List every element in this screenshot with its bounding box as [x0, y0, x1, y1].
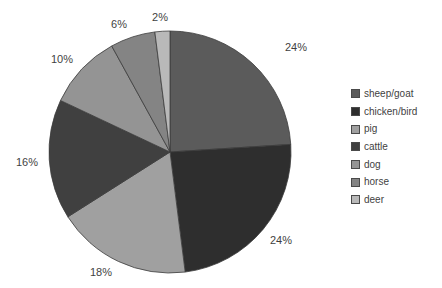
data-label-deer: 2%: [152, 11, 168, 23]
chart-legend: sheep/goatchicken/birdpigcattledoghorsed…: [351, 85, 417, 209]
legend-swatch-sheep-goat: [351, 89, 360, 98]
legend-item-sheep-goat: sheep/goat: [351, 85, 417, 103]
data-label-dog: 10%: [51, 53, 73, 65]
data-label-horse: 6%: [111, 18, 127, 30]
data-label-pig: 18%: [90, 266, 112, 278]
legend-item-cattle: cattle: [351, 138, 417, 156]
data-label-cattle: 16%: [16, 156, 38, 168]
pie-chart-figure: 24%24%18%16%10%6%2% sheep/goatchicken/bi…: [0, 0, 442, 288]
legend-label-sheep-goat: sheep/goat: [364, 89, 414, 99]
legend-swatch-cattle: [351, 142, 360, 151]
data-label-sheep-goat: 24%: [285, 41, 307, 53]
legend-swatch-pig: [351, 125, 360, 134]
legend-label-dog: dog: [364, 160, 381, 170]
legend-item-dog: dog: [351, 156, 417, 174]
pie-slice-chicken-bird: [170, 144, 291, 272]
legend-label-chicken-bird: chicken/bird: [364, 107, 417, 117]
legend-item-pig: pig: [351, 120, 417, 138]
legend-swatch-chicken-bird: [351, 107, 360, 116]
legend-label-horse: horse: [364, 177, 389, 187]
legend-swatch-horse: [351, 178, 360, 187]
legend-item-horse: horse: [351, 173, 417, 191]
legend-label-deer: deer: [364, 195, 384, 205]
data-label-chicken-bird: 24%: [270, 234, 292, 246]
legend-swatch-deer: [351, 195, 360, 204]
legend-item-deer: deer: [351, 191, 417, 209]
legend-label-pig: pig: [364, 124, 377, 134]
legend-swatch-dog: [351, 160, 360, 169]
legend-label-cattle: cattle: [364, 142, 388, 152]
legend-item-chicken-bird: chicken/bird: [351, 103, 417, 121]
pie-slice-sheep-goat: [170, 31, 291, 152]
